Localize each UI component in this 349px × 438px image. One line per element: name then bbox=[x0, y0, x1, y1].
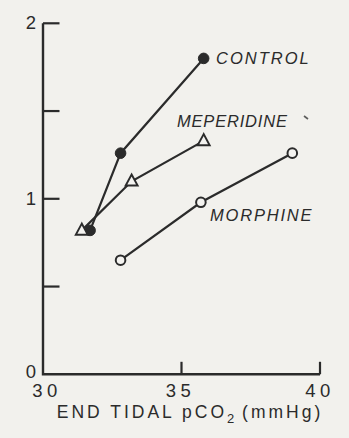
y-axis-tick-label: 2 bbox=[26, 12, 36, 33]
series-line-meperidine bbox=[82, 141, 204, 231]
series-label-control: CONTROL bbox=[216, 49, 311, 67]
marker-filled-circle-control bbox=[115, 148, 126, 159]
x-axis-title-main: END TIDAL pCO bbox=[57, 402, 227, 422]
x-axis-title-subscript: 2 bbox=[227, 411, 234, 426]
x-axis-title-unit: (mmHg) bbox=[234, 402, 323, 422]
stray-speck bbox=[304, 116, 308, 119]
axis-spine bbox=[43, 23, 320, 374]
marker-open-triangle-meperidine bbox=[198, 134, 210, 145]
series-label-meperidine: MEPERIDINE bbox=[177, 112, 288, 130]
x-axis-tick-label: 35 bbox=[166, 380, 196, 401]
x-axis-tick-label: 40 bbox=[305, 380, 335, 401]
x-axis-tick-label: 30 bbox=[32, 380, 62, 401]
x-axis-title: END TIDAL pCO2 (mmHg) bbox=[57, 402, 324, 426]
data-point-markers bbox=[76, 53, 297, 265]
marker-open-circle-morphine bbox=[288, 148, 298, 158]
series-lines bbox=[82, 58, 292, 260]
marker-open-circle-morphine bbox=[196, 198, 206, 208]
chart-svg: 012303540 CONTROLMEPERIDINEMORPHINE END … bbox=[0, 0, 349, 438]
series-label-morphine: MORPHINE bbox=[210, 206, 313, 224]
marker-open-circle-morphine bbox=[116, 255, 126, 265]
scanned-figure: 012303540 CONTROLMEPERIDINEMORPHINE END … bbox=[0, 0, 349, 438]
marker-filled-circle-control bbox=[198, 53, 209, 64]
y-axis-tick-label: 1 bbox=[26, 188, 36, 209]
